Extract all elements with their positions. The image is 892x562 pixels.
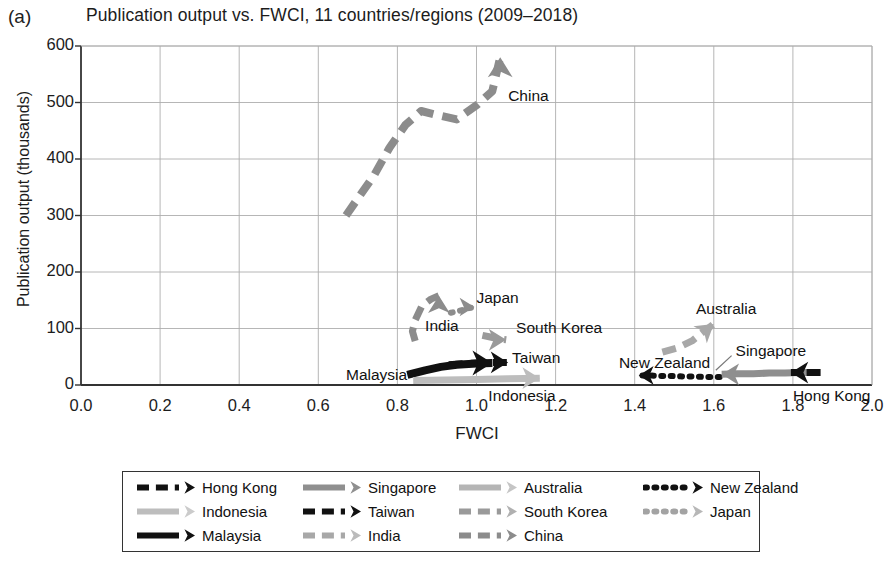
legend-item-china[interactable]: China	[457, 527, 643, 544]
series-path	[413, 378, 540, 380]
legend-label: Hong Kong	[202, 479, 277, 496]
series-label-singapore: Singapore	[736, 342, 807, 360]
series-label-hong-kong: Hong Kong	[793, 387, 871, 405]
legend-label: India	[368, 527, 401, 544]
series-label-new-zealand: New Zealand	[619, 354, 710, 372]
legend-label: China	[524, 527, 563, 544]
series-path	[639, 375, 720, 377]
legend-swatch	[135, 480, 197, 495]
series-australia	[662, 315, 720, 352]
series-label-taiwan: Taiwan	[512, 349, 560, 367]
figure-panel-a: (a) Publication output vs. FWCI, 11 coun…	[0, 0, 892, 562]
legend-label: Singapore	[368, 479, 436, 496]
legend-label: New Zealand	[710, 479, 798, 496]
legend-item-new-zealand[interactable]: New Zealand	[643, 479, 773, 496]
series-arrowhead	[693, 315, 720, 343]
series-label-india: India	[425, 317, 459, 335]
legend-label: Taiwan	[368, 503, 415, 520]
legend-swatch	[301, 528, 363, 543]
legend-swatch	[643, 480, 705, 495]
legend-swatch	[643, 504, 705, 519]
legend-swatch	[457, 528, 519, 543]
series-label-japan: Japan	[477, 289, 519, 307]
series-label-australia: Australia	[696, 300, 756, 318]
legend-label: Indonesia	[202, 503, 267, 520]
legend-label: Japan	[710, 503, 751, 520]
series-south-korea	[482, 329, 506, 351]
series-path	[346, 57, 500, 215]
legend-item-malaysia[interactable]: Malaysia	[135, 527, 301, 544]
legend-swatch	[135, 504, 197, 519]
legend-swatch	[301, 480, 363, 495]
legend-swatch	[457, 504, 519, 519]
legend-item-singapore[interactable]: Singapore	[301, 479, 457, 496]
legend-item-taiwan[interactable]: Taiwan	[301, 503, 457, 520]
singapore-leader-line	[716, 356, 732, 371]
chart-legend: Hong KongSingaporeAustraliaNew ZealandIn…	[122, 471, 760, 552]
series-china	[346, 57, 513, 215]
legend-label: South Korea	[524, 503, 607, 520]
legend-swatch	[135, 528, 197, 543]
series-arrowhead	[460, 298, 475, 317]
legend-swatch	[301, 504, 363, 519]
series-label-malaysia: Malaysia	[346, 366, 407, 384]
legend-item-south-korea[interactable]: South Korea	[457, 503, 643, 520]
legend-item-japan[interactable]: Japan	[643, 503, 773, 520]
series-label-south-korea: South Korea	[516, 319, 602, 337]
legend-item-hong-kong[interactable]: Hong Kong	[135, 479, 301, 496]
legend-label: Australia	[524, 479, 582, 496]
series-malaysia	[407, 351, 492, 376]
legend-swatch	[457, 480, 519, 495]
legend-label: Malaysia	[202, 527, 261, 544]
series-label-china: China	[508, 87, 549, 105]
series-japan	[451, 298, 475, 317]
legend-item-india[interactable]: India	[301, 527, 457, 544]
series-label-indonesia: Indonesia	[488, 387, 555, 405]
legend-item-indonesia[interactable]: Indonesia	[135, 503, 301, 520]
legend-item-australia[interactable]: Australia	[457, 479, 643, 496]
